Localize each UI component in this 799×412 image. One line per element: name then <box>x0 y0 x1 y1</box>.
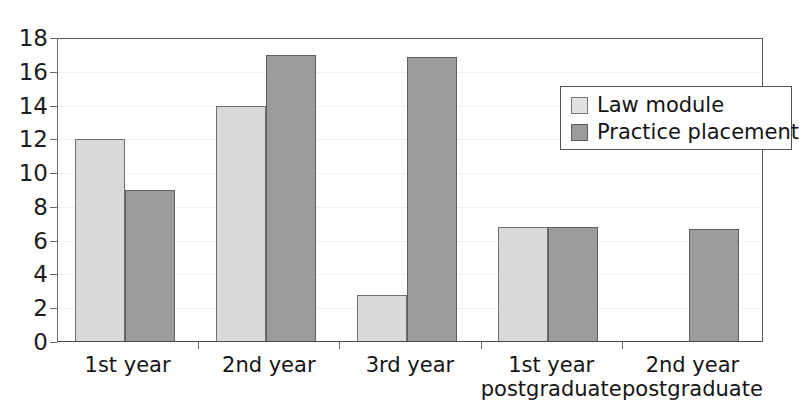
legend-item-practice-placement[interactable]: Practice placement <box>571 119 791 146</box>
legend-item-law-module[interactable]: Law module <box>571 92 791 119</box>
y-axis-tick-label: 14 <box>19 95 48 118</box>
y-axis-tick <box>50 106 57 107</box>
y-axis-tick-label: 10 <box>19 162 48 185</box>
legend-swatch-dark-icon <box>571 124 588 141</box>
bar <box>266 55 316 342</box>
y-axis-tick-label: 18 <box>19 27 48 50</box>
cropped-title-remnant <box>0 0 797 14</box>
y-axis-tick-label: 16 <box>19 61 48 84</box>
y-axis-tick <box>50 342 57 343</box>
y-axis-tick <box>50 139 57 140</box>
y-axis-tick <box>50 173 57 174</box>
plot-area: Law module Practice placement <box>57 38 763 342</box>
bar <box>125 190 175 342</box>
bar <box>689 229 739 342</box>
legend-swatch-light-icon <box>571 97 588 114</box>
legend-label: Law module <box>597 95 724 116</box>
x-axis-tick <box>339 342 340 349</box>
bar <box>75 139 125 342</box>
x-axis-tick <box>481 342 482 349</box>
y-axis-tick <box>50 308 57 309</box>
y-axis-tick <box>50 38 57 39</box>
y-axis-tick-label: 2 <box>33 297 48 320</box>
axis-top <box>57 38 763 39</box>
bar <box>548 227 598 342</box>
bar <box>357 295 407 342</box>
x-axis-tick <box>622 342 623 349</box>
y-axis-tick <box>50 72 57 73</box>
x-axis-category-label: 2nd year postgraduate <box>610 354 775 401</box>
legend-label: Practice placement <box>597 122 799 143</box>
axis-right <box>762 38 763 342</box>
y-axis-tick-label: 8 <box>33 196 48 219</box>
bar <box>498 227 548 342</box>
axis-left <box>57 38 58 342</box>
y-axis-tick-label: 0 <box>33 331 48 354</box>
y-axis-tick-label: 6 <box>33 230 48 253</box>
y-axis-tick-label: 4 <box>33 263 48 286</box>
y-axis-tick <box>50 241 57 242</box>
y-axis-tick-label: 12 <box>19 128 48 151</box>
y-axis-tick <box>50 207 57 208</box>
bar <box>407 57 457 342</box>
legend: Law module Practice placement <box>560 86 792 150</box>
x-axis-tick <box>198 342 199 349</box>
bar <box>216 106 266 342</box>
y-axis-tick <box>50 274 57 275</box>
axis-bottom <box>57 341 763 342</box>
